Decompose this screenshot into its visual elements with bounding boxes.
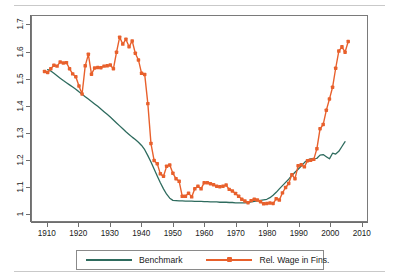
data-point-marker xyxy=(155,162,158,165)
data-point-marker xyxy=(55,64,58,67)
series-rel-wage-line xyxy=(45,37,349,204)
legend: Benchmark Rel. Wage in Fins. xyxy=(76,250,324,270)
data-point-marker xyxy=(62,61,65,64)
data-point-marker xyxy=(296,164,299,167)
data-point-marker xyxy=(306,159,309,162)
figure-container: 11.11.21.31.41.51.61.7 19101920193019401… xyxy=(0,0,399,277)
data-point-marker xyxy=(300,163,303,166)
data-point-marker xyxy=(146,102,149,105)
data-point-marker xyxy=(134,52,137,55)
legend-entry-benchmark: Benchmark xyxy=(86,255,182,265)
data-point-marker xyxy=(281,191,284,194)
data-point-marker xyxy=(65,61,68,64)
data-point-marker xyxy=(259,200,262,203)
data-point-marker xyxy=(243,199,246,202)
data-point-marker xyxy=(325,109,328,112)
data-point-marker xyxy=(187,191,190,194)
data-point-marker xyxy=(343,50,346,53)
x-axis-tick xyxy=(236,222,237,227)
data-point-marker xyxy=(262,202,265,205)
x-axis-tick xyxy=(141,222,142,227)
data-point-marker xyxy=(265,202,268,205)
y-axis-tick-label: 1.6 xyxy=(17,52,26,63)
data-point-marker xyxy=(196,184,199,187)
data-point-marker xyxy=(237,195,240,198)
data-point-marker xyxy=(43,70,46,73)
x-axis-tick xyxy=(362,222,363,227)
data-point-marker xyxy=(118,35,121,38)
data-point-marker xyxy=(159,172,162,175)
x-axis-tick-label: 1930 xyxy=(101,229,119,238)
data-point-marker xyxy=(231,189,234,192)
x-axis-tick-label: 1940 xyxy=(132,229,150,238)
data-point-marker xyxy=(87,53,90,56)
x-axis: 1910192019301940195019601970198019902000… xyxy=(31,222,368,230)
data-point-marker xyxy=(209,182,212,185)
legend-entry-rel-wage: Rel. Wage in Fins. xyxy=(206,255,329,265)
x-axis-tick-label: 1990 xyxy=(290,229,308,238)
data-point-marker xyxy=(152,159,155,162)
y-axis-tick-label: 1.5 xyxy=(17,79,26,90)
data-point-marker xyxy=(287,182,290,185)
data-point-marker xyxy=(303,165,306,168)
data-point-marker xyxy=(315,147,318,150)
x-axis-tick xyxy=(78,222,79,227)
x-axis-spine xyxy=(31,222,368,223)
x-axis-tick-label: 1980 xyxy=(258,229,276,238)
y-axis-tick-label: 1.7 xyxy=(17,24,26,35)
data-point-marker xyxy=(202,181,205,184)
data-point-marker xyxy=(143,73,146,76)
data-point-marker xyxy=(99,66,102,69)
data-point-marker xyxy=(228,188,231,191)
data-point-marker xyxy=(212,183,215,186)
x-axis-tick-label: 2010 xyxy=(353,229,371,238)
plot-svg xyxy=(32,16,367,221)
data-point-marker xyxy=(312,158,315,161)
data-point-marker xyxy=(340,45,343,48)
data-point-marker xyxy=(271,202,274,205)
x-axis-tick xyxy=(110,222,111,227)
data-point-marker xyxy=(249,199,252,202)
legend-marker-rel-wage xyxy=(227,257,232,262)
data-point-marker xyxy=(193,187,196,190)
data-point-marker xyxy=(221,184,224,187)
data-point-marker xyxy=(162,175,165,178)
data-point-marker xyxy=(328,97,331,100)
data-point-marker xyxy=(93,66,96,69)
x-axis-tick xyxy=(204,222,205,227)
data-point-marker xyxy=(90,72,93,75)
data-point-marker xyxy=(168,163,171,166)
data-point-marker xyxy=(218,185,221,188)
y-axis-tick-label: 1.4 xyxy=(17,106,26,117)
data-point-marker xyxy=(206,181,209,184)
data-point-marker xyxy=(190,195,193,198)
figure-rule-top xyxy=(14,5,385,6)
data-point-marker xyxy=(68,67,71,70)
data-point-marker xyxy=(278,198,281,201)
data-point-marker xyxy=(140,72,143,75)
y-axis-tick-label: 1.2 xyxy=(17,160,26,171)
x-axis-tick-label: 1910 xyxy=(38,229,56,238)
chart-area: 11.11.21.31.41.51.61.7 19101920193019401… xyxy=(0,10,399,268)
data-point-marker xyxy=(224,183,227,186)
data-point-marker xyxy=(334,67,337,70)
data-point-marker xyxy=(284,186,287,189)
legend-swatch-benchmark xyxy=(86,255,132,265)
x-axis-tick-label: 1920 xyxy=(69,229,87,238)
data-point-marker xyxy=(52,64,55,67)
data-point-marker xyxy=(256,198,259,201)
data-point-marker xyxy=(49,67,52,70)
data-point-marker xyxy=(318,127,321,130)
data-point-marker xyxy=(115,50,118,53)
data-point-marker xyxy=(124,38,127,41)
data-point-marker xyxy=(331,86,334,89)
data-point-marker xyxy=(274,197,277,200)
data-point-marker xyxy=(46,71,49,74)
x-axis-tick-label: 1970 xyxy=(227,229,245,238)
data-point-marker xyxy=(268,201,271,204)
y-axis-tick-label: 1.1 xyxy=(17,187,26,198)
x-axis-tick xyxy=(267,222,268,227)
data-point-marker xyxy=(112,67,115,70)
data-point-marker xyxy=(127,45,130,48)
legend-label-benchmark: Benchmark xyxy=(139,255,182,265)
